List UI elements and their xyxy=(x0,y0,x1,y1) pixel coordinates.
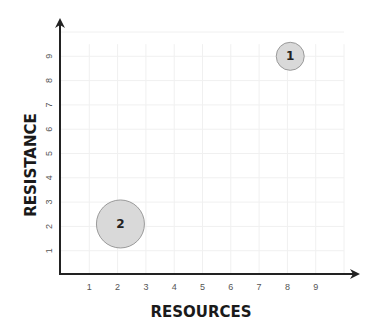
y-tick-label: 3 xyxy=(44,200,54,205)
y-tick-label: 6 xyxy=(44,127,54,132)
x-tick-label: 6 xyxy=(228,282,233,292)
x-tick-label: 7 xyxy=(257,282,262,292)
x-tick-label: 3 xyxy=(143,282,148,292)
y-tick-label: 7 xyxy=(44,102,54,107)
y-tick-label: 1 xyxy=(44,248,54,253)
y-tick-label: 8 xyxy=(44,78,54,83)
y-tick-label: 9 xyxy=(44,54,54,59)
x-tick-label: 5 xyxy=(200,282,205,292)
y-tick-label: 5 xyxy=(44,151,54,156)
bubble-chart: 12 123456789 123456789 RESOURCES RESISTA… xyxy=(0,0,379,334)
y-tick-label: 2 xyxy=(44,224,54,229)
bubble-2: 2 xyxy=(96,200,144,248)
x-tick-label: 9 xyxy=(313,282,318,292)
x-tick-label: 2 xyxy=(115,282,120,292)
y-tick-label: 4 xyxy=(44,175,54,180)
x-tick-label: 1 xyxy=(87,282,92,292)
y-axis-title: RESISTANCE xyxy=(22,113,40,216)
bubble-label: 1 xyxy=(286,49,294,63)
bubbles: 12 xyxy=(96,42,304,248)
y-tick-labels: 123456789 xyxy=(44,54,54,253)
x-tick-label: 8 xyxy=(285,282,290,292)
x-axis-title: RESOURCES xyxy=(150,303,251,321)
x-tick-label: 4 xyxy=(172,282,177,292)
bubble-label: 2 xyxy=(116,217,124,231)
x-tick-labels: 123456789 xyxy=(87,282,318,292)
bubble-1: 1 xyxy=(276,42,304,70)
